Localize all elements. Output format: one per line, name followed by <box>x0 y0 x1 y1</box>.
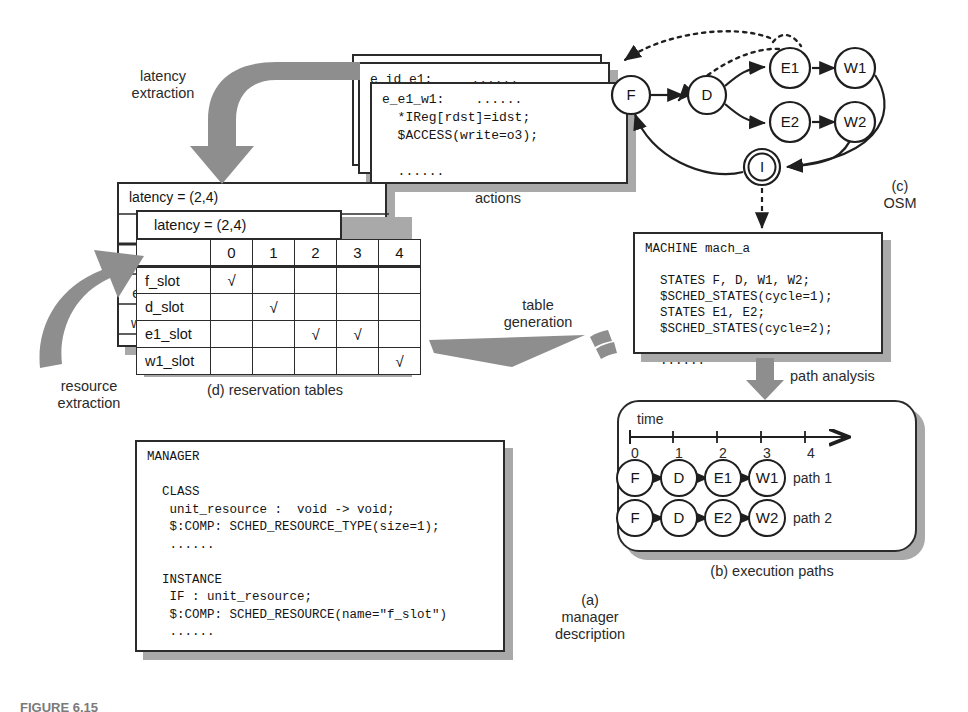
svg-text:F: F <box>630 509 639 526</box>
osm-state-F: F <box>612 76 650 114</box>
caption-reservation-tables: (d) reservation tables <box>150 382 400 399</box>
rtable-cell-e1_slot-0 <box>211 321 253 348</box>
rtable-cell-f_slot-3 <box>337 267 379 294</box>
table-generation-arrow <box>400 325 620 405</box>
rtable-body: f_slot√d_slot√e1_slot√√w1_slot√ <box>137 267 421 375</box>
check-icon: √ <box>269 299 277 316</box>
svg-text:0: 0 <box>631 445 639 461</box>
osm-state-E2: E2 <box>770 102 810 142</box>
svg-text:4: 4 <box>807 445 815 461</box>
label-table-generation: table generation <box>478 297 598 331</box>
execution-paths-diagram: time 0 1 2 3 4 F D E1 W1 path 1 F <box>617 400 917 552</box>
rtable-latency-banner: latency = (2,4) <box>136 210 342 240</box>
resource-extraction-arrow <box>32 236 162 376</box>
actions-box-front: e_e1_w1: ...... *IReg[rdst]=idst; $ACCES… <box>370 82 628 184</box>
rtable-col-3: 3 <box>337 240 379 267</box>
rtable-cell-f_slot-2 <box>295 267 337 294</box>
figure-caption: FIGURE 6.15 <box>20 700 98 712</box>
svg-text:D: D <box>674 509 685 526</box>
osm-state-W2: W2 <box>835 102 875 142</box>
rtable-cell-w1_slot-1 <box>253 348 295 375</box>
check-icon: √ <box>311 326 319 343</box>
rtable-cell-w1_slot-2 <box>295 348 337 375</box>
svg-text:2: 2 <box>719 445 727 461</box>
svg-text:W2: W2 <box>756 509 779 526</box>
osm-state-E1: E1 <box>770 48 810 88</box>
path-2-label: path 2 <box>793 510 832 526</box>
svg-text:F: F <box>626 86 635 103</box>
rtable-cell-w1_slot-0 <box>211 348 253 375</box>
rtable-cell-e1_slot-1 <box>253 321 295 348</box>
reservation-table-front: 0 1 2 3 4 f_slot√d_slot√e1_slot√√w1_slot… <box>136 239 421 375</box>
svg-text:I: I <box>760 158 764 175</box>
rtable-col-1: 1 <box>253 240 295 267</box>
svg-text:1: 1 <box>675 445 683 461</box>
machine-code: MACHINE mach_a STATES F, D, W1, W2; $SCH… <box>635 234 881 376</box>
svg-text:D: D <box>674 469 685 486</box>
svg-text:E2: E2 <box>781 113 799 130</box>
rtable-header-row: 0 1 2 3 4 <box>137 240 421 267</box>
figure-canvas: e_id e1: ...... e_e1_w1: ...... *IReg[rd… <box>0 0 968 712</box>
path-1-label: path 1 <box>793 470 832 486</box>
rtable-cell-f_slot-0: √ <box>211 267 253 294</box>
manager-code: MANAGER CLASS unit_resource : void -> vo… <box>137 442 503 649</box>
svg-text:F: F <box>630 469 639 486</box>
svg-text:W2: W2 <box>844 113 867 130</box>
rtable-col-4: 4 <box>379 240 421 267</box>
rtable-cell-f_slot-1 <box>253 267 295 294</box>
rtable-cell-e1_slot-3: √ <box>337 321 379 348</box>
machine-box: MACHINE mach_a STATES F, D, W1, W2; $SCH… <box>633 232 883 354</box>
caption-manager-description: (a) manager description <box>520 592 660 643</box>
check-icon: √ <box>395 353 403 370</box>
label-resource-extraction: resource extraction <box>34 378 144 412</box>
caption-osm: (c) OSM <box>845 178 955 212</box>
time-axis-label: time <box>637 411 664 427</box>
svg-text:D: D <box>702 86 713 103</box>
svg-text:3: 3 <box>763 445 771 461</box>
rtable-cell-f_slot-4 <box>379 267 421 294</box>
rtable-cell-d_slot-1: √ <box>253 294 295 321</box>
table-row: e1_slot√√ <box>137 321 421 348</box>
table-row: f_slot√ <box>137 267 421 294</box>
manager-box: MANAGER CLASS unit_resource : void -> vo… <box>135 440 505 652</box>
rtable-cell-d_slot-2 <box>295 294 337 321</box>
caption-execution-paths: (b) execution paths <box>657 563 887 580</box>
label-path-analysis: path analysis <box>790 368 930 385</box>
label-latency-extraction: latency extraction <box>108 68 218 102</box>
rtable-col-2: 2 <box>295 240 337 267</box>
rtable-cell-d_slot-0 <box>211 294 253 321</box>
svg-text:E2: E2 <box>714 509 732 526</box>
check-icon: √ <box>227 272 235 289</box>
svg-text:E1: E1 <box>714 469 732 486</box>
rtable-cell-w1_slot-3 <box>337 348 379 375</box>
svg-text:E1: E1 <box>781 59 799 76</box>
actions-front-code: e_e1_w1: ...... *IReg[rdst]=idst; $ACCES… <box>372 84 626 188</box>
rtable-cell-w1_slot-4: √ <box>379 348 421 375</box>
table-row: d_slot√ <box>137 294 421 321</box>
osm-state-D: D <box>688 76 726 114</box>
rtable-cell-e1_slot-2: √ <box>295 321 337 348</box>
rtable-cell-d_slot-3 <box>337 294 379 321</box>
check-icon: √ <box>353 326 361 343</box>
osm-state-I: I <box>744 149 780 185</box>
caption-actions: actions <box>408 190 588 207</box>
rtable-cell-d_slot-4 <box>379 294 421 321</box>
svg-text:W1: W1 <box>756 469 779 486</box>
rtable-col-0: 0 <box>211 240 253 267</box>
svg-text:W1: W1 <box>844 59 867 76</box>
table-row: w1_slot√ <box>137 348 421 375</box>
osm-state-W1: W1 <box>835 48 875 88</box>
rtable-cell-e1_slot-4 <box>379 321 421 348</box>
